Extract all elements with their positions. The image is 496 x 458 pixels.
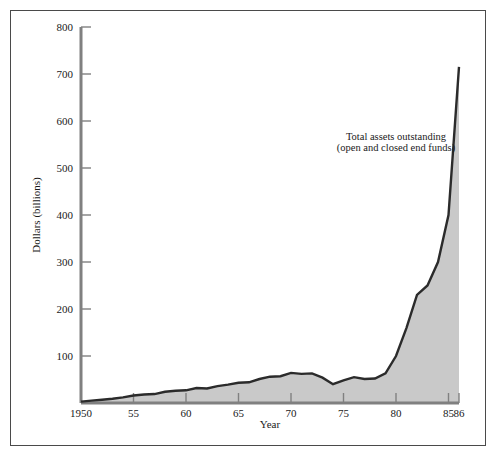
x-tick-label-55: 55 [128,407,140,419]
x-axis-title: Year [260,418,281,430]
area-fill-group [81,67,459,403]
x-tick-label-75: 75 [338,407,350,419]
x-tick-label-70: 70 [286,407,298,419]
y-tick-label-800: 800 [57,21,74,33]
x-tick-label-86: 86 [454,407,466,419]
y-tick-label-700: 700 [57,68,74,80]
x-tick-label-60: 60 [181,407,193,419]
figure-container: 100200300400500600700800 195055606570758… [0,0,496,458]
y-tick-label-500: 500 [57,162,74,174]
y-tick-label-400: 400 [57,209,74,221]
y-tick-label-600: 600 [57,115,74,127]
area-fill-total-assets [81,67,459,403]
x-tick-label-65: 65 [233,407,245,419]
chart-svg: 100200300400500600700800 195055606570758… [0,0,496,458]
y-axis-tick-labels: 100200300400500600700800 [57,21,74,362]
x-tick-label-1950: 1950 [70,407,93,419]
series-annotation-line1: Total assets outstanding [346,131,447,142]
y-tick-label-200: 200 [57,303,74,315]
series-annotation-line2: (open and closed end funds) [337,142,456,154]
y-axis-title: Dollars (billions) [30,177,43,253]
y-tick-label-300: 300 [57,256,74,268]
y-tick-label-100: 100 [57,350,74,362]
x-tick-label-80: 80 [391,407,403,419]
